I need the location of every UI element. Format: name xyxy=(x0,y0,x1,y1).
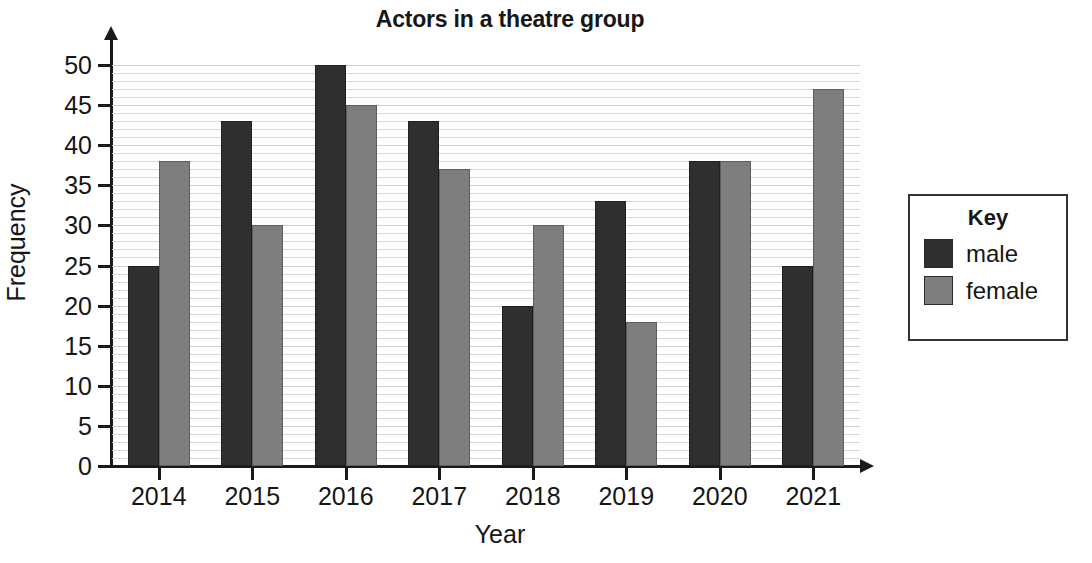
y-axis-tick xyxy=(98,265,111,268)
y-axis-tick-label: 25 xyxy=(34,251,92,280)
bar-2015-male xyxy=(221,121,252,466)
y-axis-tick xyxy=(98,345,111,348)
chart-title: Actors in a theatre group xyxy=(280,6,740,33)
legend-swatch-female xyxy=(924,276,953,305)
y-axis-tick-label: 40 xyxy=(34,131,92,160)
bar-2016-female xyxy=(346,105,377,466)
bar-2015-female xyxy=(252,225,283,466)
bar-2016-male xyxy=(315,65,346,466)
plot-area xyxy=(112,65,860,466)
gridline xyxy=(112,65,860,66)
bar-2014-female xyxy=(159,161,190,466)
y-axis-tick-label: 45 xyxy=(34,91,92,120)
legend-title: Key xyxy=(910,205,1066,231)
bar-2018-male xyxy=(502,306,533,466)
bar-2017-male xyxy=(408,121,439,466)
y-axis-tick xyxy=(98,184,111,187)
x-axis-tick xyxy=(812,466,815,480)
gridline xyxy=(112,113,860,114)
bar-2014-male xyxy=(128,266,159,467)
bar-2019-male xyxy=(595,201,626,466)
bar-2020-female xyxy=(720,161,751,466)
y-axis-tick xyxy=(98,224,111,227)
x-axis-tick xyxy=(438,466,441,480)
bar-2020-male xyxy=(689,161,720,466)
x-axis-tick xyxy=(345,466,348,480)
y-axis-tick xyxy=(98,305,111,308)
y-axis-tick xyxy=(98,385,111,388)
legend-key-box: Key malefemale xyxy=(908,194,1068,341)
y-axis-tick-label: 30 xyxy=(34,211,92,240)
y-axis-tick-label: 50 xyxy=(34,51,92,80)
gridline xyxy=(112,97,860,98)
y-axis-title: Frequency xyxy=(2,143,31,343)
bar-chart-figure: Actors in a theatre group 05101520253035… xyxy=(0,0,1092,563)
y-axis-tick xyxy=(98,104,111,107)
legend-entries: malefemale xyxy=(910,239,1066,305)
legend-label-male: male xyxy=(966,242,1018,266)
gridline xyxy=(112,81,860,82)
x-axis-tick xyxy=(158,466,161,480)
bar-2017-female xyxy=(439,169,470,466)
y-axis-tick-label: 20 xyxy=(34,291,92,320)
x-axis-arrow-icon xyxy=(860,459,874,473)
x-axis-tick xyxy=(532,466,535,480)
y-axis-tick xyxy=(98,64,111,67)
y-axis-tick-label: 10 xyxy=(34,371,92,400)
legend-item-male: male xyxy=(924,239,1066,268)
legend-swatch-male xyxy=(924,239,953,268)
y-axis-tick-label: 0 xyxy=(34,452,92,481)
x-axis-tick xyxy=(625,466,628,480)
x-axis-tick xyxy=(251,466,254,480)
y-axis-tick xyxy=(98,144,111,147)
legend-item-female: female xyxy=(924,276,1066,305)
x-axis-tick-label: 2021 xyxy=(753,482,873,511)
y-axis-tick-labels: 05101520253035404550 xyxy=(26,0,92,563)
y-axis-tick xyxy=(98,465,111,468)
bar-2019-female xyxy=(626,322,657,466)
y-axis-tick-label: 5 xyxy=(34,411,92,440)
y-axis-tick xyxy=(98,425,111,428)
y-axis-tick-label: 35 xyxy=(34,171,92,200)
gridline xyxy=(112,89,860,90)
gridline xyxy=(112,73,860,74)
x-axis-title: Year xyxy=(420,520,580,549)
bar-2021-female xyxy=(813,89,844,466)
bar-2018-female xyxy=(533,225,564,466)
legend-label-female: female xyxy=(966,279,1038,303)
gridline xyxy=(112,105,860,106)
bar-2021-male xyxy=(782,266,813,467)
x-axis-tick xyxy=(719,466,722,480)
y-axis-tick-label: 15 xyxy=(34,331,92,360)
